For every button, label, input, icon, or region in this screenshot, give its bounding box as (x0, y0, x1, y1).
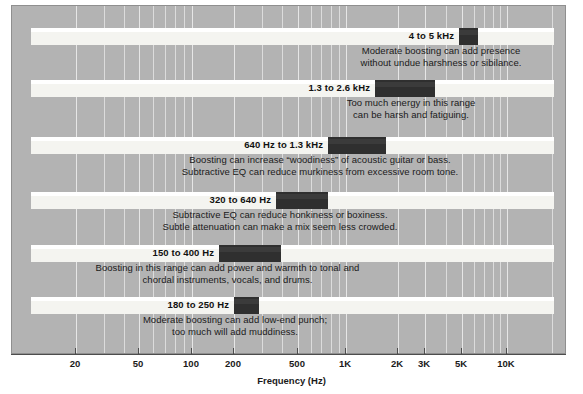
frequency-range-description: Moderate boosting can add low-end punch;… (105, 314, 365, 337)
axis-tick-label: 5K (455, 358, 467, 369)
frequency-range-label: 1.3 to 2.6 kHz (0, 79, 370, 96)
axis-tick-label: 100 (183, 358, 199, 369)
frequency-range-label: 4 to 5 kHz (0, 27, 454, 44)
axis-tick-label: 2K (391, 358, 403, 369)
frequency-range-description: Too much energy in this range can be har… (300, 97, 522, 120)
axis-tick (461, 348, 462, 355)
frequency-range-bar[interactable] (276, 192, 328, 209)
axis-tick (424, 348, 425, 355)
frequency-range-description: Boosting can increase “woodiness” of aco… (150, 154, 490, 177)
frequency-range-description: Boosting in this range can add power and… (40, 262, 415, 285)
eq-frequency-chart: 20501002005001K2K3K5K10K Frequency (Hz) … (0, 0, 583, 394)
axis-tick (297, 348, 298, 355)
axis-tick (75, 348, 76, 355)
frequency-range-label: 640 Hz to 1.3 kHz (0, 136, 323, 153)
frequency-range-bar[interactable] (375, 80, 435, 97)
axis-tick (191, 348, 192, 355)
frequency-range-description: Subtractive EQ can reduce honkiness or b… (110, 209, 450, 232)
frequency-range-bar[interactable] (459, 28, 478, 45)
frequency-range-label: 150 to 400 Hz (0, 244, 214, 261)
axis-tick-label: 20 (70, 358, 81, 369)
frequency-range-bar[interactable] (219, 245, 281, 262)
axis-tick (233, 348, 234, 355)
x-axis-title: Frequency (Hz) (0, 375, 583, 386)
axis-tick-label: 10K (497, 358, 514, 369)
frequency-range-label: 320 to 640 Hz (0, 191, 271, 208)
axis-tick (397, 348, 398, 355)
frequency-range-bar[interactable] (328, 137, 386, 154)
frequency-range-bar[interactable] (234, 297, 259, 314)
axis-tick-label: 50 (133, 358, 144, 369)
axis-tick-label: 1K (339, 358, 351, 369)
frequency-range-label: 180 to 250 Hz (0, 296, 229, 313)
x-axis-line (11, 354, 566, 355)
axis-tick-label: 500 (289, 358, 305, 369)
axis-tick-label: 200 (225, 358, 241, 369)
axis-tick (138, 348, 139, 355)
axis-tick (345, 348, 346, 355)
axis-tick-label: 3K (418, 358, 430, 369)
axis-tick (506, 348, 507, 355)
frequency-range-description: Moderate boosting can add presence witho… (330, 45, 552, 68)
